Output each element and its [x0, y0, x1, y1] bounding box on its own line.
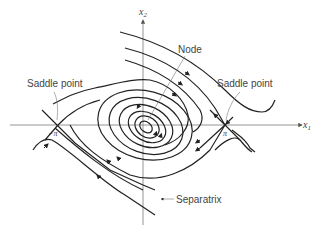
- saddle-right-leader: [226, 92, 240, 120]
- saddle-point-right-label: Saddle point: [217, 78, 273, 89]
- x1-axis-label: x1: [302, 119, 311, 132]
- node-label: Node: [178, 44, 202, 55]
- pos-pi-tick-label: π: [223, 129, 228, 138]
- saddle-left-leader: [54, 92, 58, 120]
- x2-axis-label: x2: [138, 6, 147, 19]
- separatrix-label: Separatrix: [176, 194, 222, 205]
- phase-portrait-diagram: x1 x2 −π π: [0, 0, 313, 233]
- saddle-point-left-label: Saddle point: [27, 78, 83, 89]
- lower-trajectories: [33, 125, 255, 215]
